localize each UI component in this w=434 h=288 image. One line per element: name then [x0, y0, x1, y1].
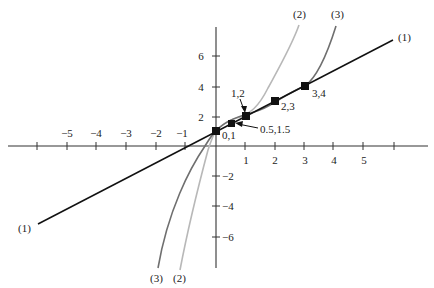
x-tick-label: 5: [361, 154, 367, 166]
point-label: 2,3: [281, 100, 295, 112]
series-label-2: (2): [293, 8, 306, 21]
series-label-3: (3): [150, 272, 163, 285]
point-label: 1,2: [231, 87, 245, 99]
x-tick-label: −4: [90, 127, 102, 139]
point-label: 0,1: [222, 129, 236, 141]
series-label-2: (2): [173, 272, 186, 285]
x-tick-label: 1: [243, 154, 249, 166]
y-tick-label: 6: [198, 50, 204, 62]
chart: −5 −4 −3 −2 −1 1 2 3 4 5 6 4 2 −2 −4 −6 …: [0, 0, 434, 288]
series-label-3: (3): [331, 8, 344, 21]
x-tick-label: 4: [331, 154, 337, 166]
y-tick-label: −2: [222, 170, 234, 182]
y-tick-label: 4: [198, 81, 204, 93]
x-tick-label: −1: [176, 127, 188, 139]
y-tick-label: −6: [222, 231, 234, 243]
x-tick-label: −2: [150, 127, 162, 139]
point-label: 3,4: [312, 87, 326, 99]
series-label-1: (1): [398, 31, 411, 44]
x-tick-label: 2: [272, 154, 278, 166]
point-label: 0.5,1.5: [260, 123, 291, 135]
y-tick-label: 2: [198, 111, 204, 123]
x-tick-label: −3: [120, 127, 132, 139]
y-tick-label: −4: [222, 200, 234, 212]
x-tick-label: 3: [302, 154, 308, 166]
series-label-1: (1): [18, 222, 31, 235]
x-tick-label: −5: [61, 127, 73, 139]
